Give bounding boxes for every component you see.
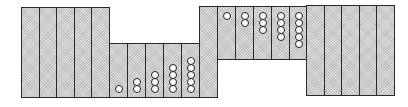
low-column xyxy=(145,43,164,98)
tall-column xyxy=(199,6,218,98)
low-column xyxy=(127,43,146,98)
bead-stack xyxy=(218,13,235,20)
bead-icon xyxy=(151,85,159,93)
bead-stack xyxy=(128,79,145,93)
bead-stack xyxy=(182,58,199,93)
right-column xyxy=(359,5,378,96)
high-column xyxy=(235,6,254,60)
right-column xyxy=(376,5,395,96)
bead-icon xyxy=(223,12,231,20)
high-column xyxy=(271,6,290,60)
bead-stack xyxy=(272,13,289,41)
right-column xyxy=(341,5,360,96)
high-column xyxy=(217,6,236,60)
bead-icon xyxy=(133,85,141,93)
right-column xyxy=(324,5,343,96)
bead-icon xyxy=(115,85,123,93)
left-column xyxy=(91,7,110,98)
bead-stack xyxy=(146,72,163,93)
bead-icon xyxy=(295,40,303,48)
right-column xyxy=(306,5,325,96)
bead-stack xyxy=(290,13,307,48)
bead-stack xyxy=(164,65,181,93)
high-column xyxy=(253,6,272,60)
bead-icon xyxy=(241,19,249,27)
bead-icon xyxy=(187,85,195,93)
bead-icon xyxy=(259,26,267,34)
left-column xyxy=(56,7,75,98)
bead-stack xyxy=(236,13,253,27)
left-column xyxy=(74,7,93,98)
low-column xyxy=(163,43,182,98)
low-column xyxy=(181,43,200,98)
left-column xyxy=(39,7,58,98)
bead-stack xyxy=(110,86,127,93)
low-column xyxy=(109,43,128,98)
bead-icon xyxy=(277,33,285,41)
bead-icon xyxy=(169,85,177,93)
bead-stack xyxy=(254,13,271,34)
left-column xyxy=(21,7,40,98)
